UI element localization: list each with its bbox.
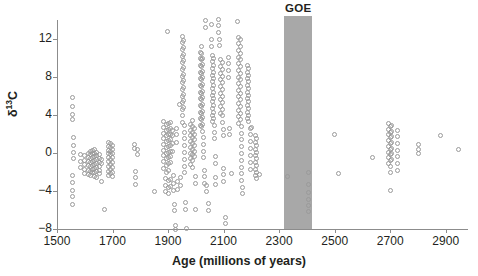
scatter-point: [181, 45, 186, 50]
scatter-point: [192, 132, 197, 137]
scatter-point: [221, 172, 226, 177]
x-axis-line: [57, 229, 468, 230]
x-axis-tick-label: 2100: [194, 234, 254, 248]
x-axis-tick-label: 2300: [249, 234, 309, 248]
scatter-point: [306, 197, 311, 202]
scatter-point: [211, 63, 216, 68]
scatter-point: [238, 64, 243, 69]
x-axis-tick: [113, 229, 114, 233]
scatter-point: [239, 137, 244, 142]
scatter-point: [206, 208, 211, 213]
scatter-point: [239, 171, 244, 176]
scatter-point: [254, 150, 259, 155]
x-axis-tick: [279, 229, 280, 233]
scatter-point: [168, 154, 173, 159]
scatter-point: [190, 165, 195, 170]
scatter-point: [306, 190, 311, 195]
scatter-point: [254, 156, 259, 161]
scatter-point: [246, 73, 251, 78]
scatter-point: [240, 185, 245, 190]
scatter-point: [70, 95, 75, 100]
scatter-point: [200, 115, 205, 120]
scatter-point: [173, 227, 178, 232]
scatter-point: [211, 76, 216, 81]
x-axis-tick: [390, 229, 391, 233]
scatter-point: [388, 164, 393, 169]
scatter-point: [221, 127, 226, 132]
scatter-point: [71, 156, 76, 161]
scatter-point: [239, 124, 244, 129]
scatter-point: [178, 183, 183, 188]
x-axis-tick: [57, 229, 58, 233]
scatter-point: [193, 181, 198, 186]
scatter-point: [246, 66, 251, 71]
scatter-point: [239, 144, 244, 149]
scatter-point: [71, 135, 76, 140]
scatter-point: [248, 132, 253, 137]
scatter-point: [254, 163, 259, 168]
scatter-point: [389, 157, 394, 162]
scatter-point: [239, 151, 244, 156]
scatter-point: [216, 17, 221, 22]
scatter-point: [332, 132, 337, 137]
scatter-point: [174, 126, 179, 131]
y-axis-tick: [53, 153, 57, 154]
scatter-point: [201, 135, 206, 140]
scatter-point: [181, 85, 186, 90]
scatter-point: [70, 112, 75, 117]
scatter-point: [181, 65, 186, 70]
scatter-point: [370, 155, 375, 160]
scatter-point: [182, 170, 187, 175]
goe-annotation-label: GOE: [285, 2, 311, 14]
chart-figure: GOE 12840−4−8 δ13C Age (millions of year…: [0, 0, 478, 276]
scatter-point: [182, 136, 187, 141]
scatter-point: [181, 98, 186, 103]
scatter-point: [211, 56, 216, 61]
scatter-point: [99, 179, 104, 184]
scatter-point: [239, 165, 244, 170]
scatter-point: [70, 117, 75, 122]
scatter-point: [216, 30, 221, 35]
scatter-point: [238, 37, 243, 42]
scatter-point: [220, 100, 225, 105]
scatter-point: [238, 44, 243, 49]
scatter-point: [211, 110, 216, 115]
scatter-point: [389, 129, 394, 134]
scatter-point: [133, 169, 138, 174]
scatter-point: [181, 78, 186, 83]
scatter-point: [221, 166, 226, 171]
scatter-point: [238, 97, 243, 102]
scatter-point: [70, 104, 75, 109]
scatter-point: [202, 174, 207, 179]
scatter-point: [248, 146, 253, 151]
scatter-point: [201, 149, 206, 154]
y-axis-tick: [53, 77, 57, 78]
scatter-point: [238, 104, 243, 109]
scatter-point: [238, 84, 243, 89]
scatter-point: [217, 43, 222, 48]
scatter-point: [192, 137, 197, 142]
scatter-point: [226, 68, 231, 73]
scatter-point: [182, 150, 187, 155]
scatter-plot-area: [57, 20, 468, 229]
scatter-point: [246, 79, 251, 84]
scatter-point: [209, 44, 214, 49]
scatter-point: [248, 139, 253, 144]
scatter-point: [226, 61, 231, 66]
scatter-point: [192, 149, 197, 154]
scatter-point: [200, 56, 205, 61]
scatter-point: [249, 125, 254, 130]
scatter-point: [389, 123, 394, 128]
x-axis-tick: [335, 229, 336, 233]
scatter-point: [203, 18, 208, 23]
x-axis-tick-label: 2700: [360, 234, 420, 248]
scatter-point: [172, 208, 177, 213]
y-axis-tick: [53, 115, 57, 116]
scatter-point: [336, 171, 341, 176]
scatter-point: [135, 152, 140, 157]
scatter-point: [306, 182, 311, 187]
scatter-point: [193, 207, 198, 212]
x-axis-tick-label: 2500: [305, 234, 365, 248]
scatter-point: [70, 202, 75, 207]
scatter-point: [165, 29, 170, 34]
